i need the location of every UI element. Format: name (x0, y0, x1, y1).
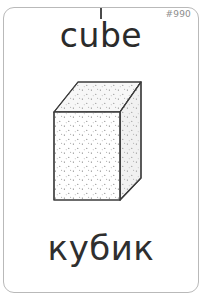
cube-3d-illustration (0, 70, 202, 215)
english-word: cube (0, 17, 202, 55)
russian-word: кубик (0, 228, 202, 268)
cube-front-face (54, 112, 120, 200)
